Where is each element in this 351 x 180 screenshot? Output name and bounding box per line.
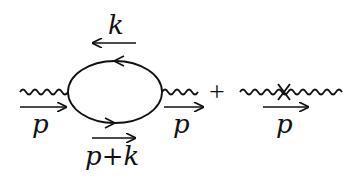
counterterm-momentum-label: p — [276, 111, 293, 137]
incoming-photon-line — [20, 90, 68, 95]
fermion-loop — [68, 61, 162, 123]
feynman-diagram — [0, 0, 351, 180]
counterterm-photon-line — [240, 90, 342, 95]
incoming-momentum-label: p — [32, 111, 49, 137]
loop-top-momentum-label: k — [108, 12, 124, 38]
loop-bottom-momentum-label: p+k — [85, 143, 139, 169]
plus-operator: + — [209, 78, 225, 106]
outgoing-momentum-label: p — [173, 111, 190, 137]
outgoing-photon-line — [162, 90, 198, 95]
